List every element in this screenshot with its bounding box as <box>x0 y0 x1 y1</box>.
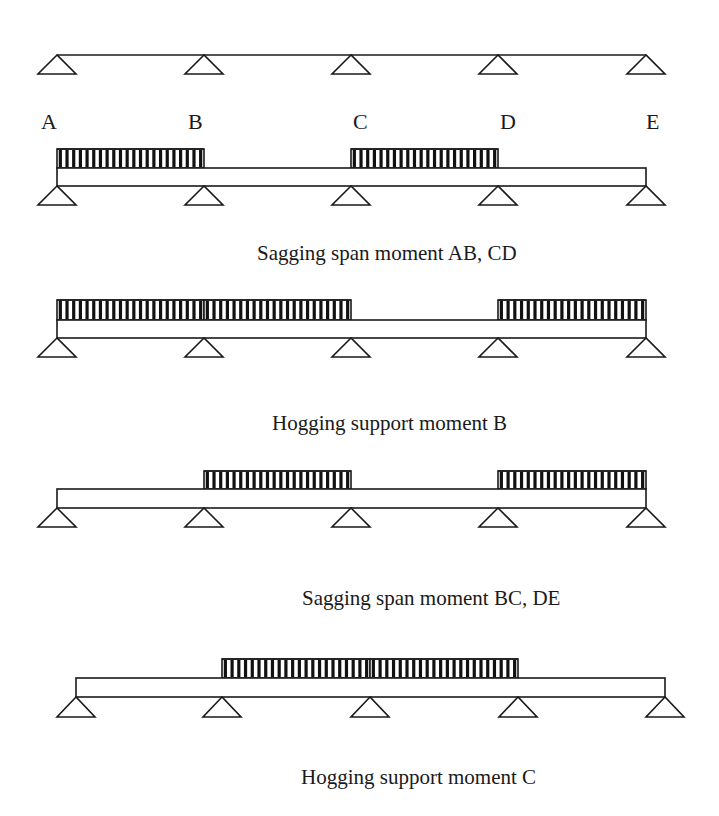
pin-support-icon <box>203 697 241 717</box>
distributed-load-bc <box>222 659 370 678</box>
pin-support-icon <box>479 186 517 205</box>
pin-support-icon <box>185 55 223 74</box>
distributed-load-bc <box>204 471 351 489</box>
beam <box>57 168 646 186</box>
pin-support-icon <box>185 186 223 205</box>
pin-support-icon <box>627 508 665 527</box>
distributed-load-ab <box>57 149 204 168</box>
pin-support-icon <box>479 55 517 74</box>
load-case-sagging-BC-DE: Sagging span moment BC, DE <box>38 471 665 610</box>
pin-support-icon <box>627 55 665 74</box>
pin-support-icon <box>627 186 665 205</box>
pin-support-icon <box>332 55 370 74</box>
load-case-sagging-AB-CD: Sagging span moment AB, CD <box>38 149 665 265</box>
pin-support-icon <box>479 508 517 527</box>
caption-sagging-BC-DE: Sagging span moment BC, DE <box>302 586 560 610</box>
load-case-hogging-B: Hogging support moment B <box>38 300 665 435</box>
pin-support-icon <box>38 508 76 527</box>
caption-sagging-AB-CD: Sagging span moment AB, CD <box>257 241 517 265</box>
load-case-hogging-C: Hogging support moment C <box>57 659 684 789</box>
distributed-load-de <box>498 471 646 489</box>
pin-support-icon <box>38 338 76 357</box>
node-label-e: E <box>646 109 659 134</box>
distributed-load-bc <box>204 300 351 320</box>
load-cases: Sagging span moment AB, CDHogging suppor… <box>38 149 684 789</box>
pin-support-icon <box>332 186 370 205</box>
pin-support-icon <box>38 55 76 74</box>
node-label-d: D <box>500 109 516 134</box>
caption-hogging-C: Hogging support moment C <box>301 765 536 789</box>
pin-support-icon <box>479 338 517 357</box>
pin-support-icon <box>185 338 223 357</box>
node-labels: ABCDE <box>41 109 659 134</box>
pin-support-icon <box>627 338 665 357</box>
distributed-load-ab <box>57 300 204 320</box>
pin-support-icon <box>332 508 370 527</box>
node-label-b: B <box>188 109 203 134</box>
distributed-load-de <box>498 300 646 320</box>
pin-support-icon <box>351 697 389 717</box>
reference-beam <box>38 55 665 74</box>
pin-support-icon <box>499 697 537 717</box>
pin-support-icon <box>57 697 95 717</box>
beam <box>57 489 646 508</box>
pin-support-icon <box>646 697 684 717</box>
distributed-load-cd <box>370 659 518 678</box>
pin-support-icon <box>332 338 370 357</box>
node-label-a: A <box>41 109 57 134</box>
distributed-load-cd <box>351 149 498 168</box>
pin-support-icon <box>185 508 223 527</box>
node-label-c: C <box>353 109 368 134</box>
beam <box>76 678 665 697</box>
caption-hogging-B: Hogging support moment B <box>272 411 507 435</box>
pin-support-icon <box>38 186 76 205</box>
beam <box>57 320 646 338</box>
continuous-beam-load-arrangements-diagram: ABCDE Sagging span moment AB, CDHogging … <box>0 0 719 816</box>
